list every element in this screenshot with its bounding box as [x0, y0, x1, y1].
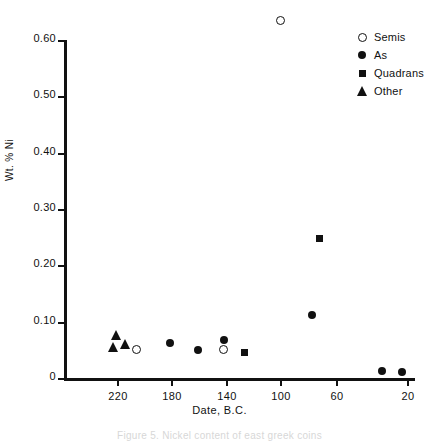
- data-point-as: [378, 367, 386, 375]
- x-tick-mark: [280, 378, 282, 386]
- legend-label: Semis: [374, 31, 406, 43]
- x-axis-title: Date, B.C.: [0, 404, 439, 416]
- x-tick-label: 100: [271, 390, 290, 402]
- y-tick-mark: [58, 378, 67, 380]
- x-tick-mark: [336, 378, 338, 386]
- triangle-filled-icon: [357, 86, 367, 96]
- x-tick-mark: [117, 378, 119, 386]
- y-tick-label: 0.60: [33, 32, 56, 44]
- x-tick-label: 60: [331, 390, 344, 402]
- chart-legend: SemisAsQuadransOther: [355, 28, 439, 100]
- y-axis-title: Wt. % Ni: [4, 139, 15, 181]
- data-point-semis: [132, 345, 141, 354]
- x-tick-mark: [407, 378, 409, 386]
- y-tick-label: 0.30: [33, 201, 56, 213]
- circle-open-icon: [358, 33, 367, 42]
- y-tick-label: 0.40: [33, 145, 56, 157]
- data-point-other: [108, 342, 118, 352]
- data-point-as: [166, 339, 174, 347]
- legend-item-semis[interactable]: Semis: [355, 28, 439, 46]
- circle-filled-icon: [358, 51, 366, 59]
- legend-item-other[interactable]: Other: [355, 82, 439, 100]
- x-tick-label: 180: [162, 390, 181, 402]
- data-point-quadrans: [241, 349, 248, 356]
- y-tick-mark: [58, 265, 67, 267]
- legend-marker-wrap: [355, 51, 369, 59]
- x-tick-mark: [226, 378, 228, 386]
- legend-label: Other: [374, 85, 403, 97]
- y-tick-mark: [58, 322, 67, 324]
- x-tick-label: 140: [217, 390, 236, 402]
- chart-figure: 0.600.500.400.300.200.100 22018014010060…: [0, 0, 439, 441]
- x-tick-mark: [171, 378, 173, 386]
- legend-marker-wrap: [355, 33, 369, 42]
- legend-marker-wrap: [355, 70, 369, 77]
- x-tick-label: 220: [108, 390, 127, 402]
- data-point-other: [120, 339, 130, 349]
- y-tick-mark: [58, 96, 67, 98]
- data-point-as: [220, 336, 228, 344]
- y-tick-label: 0.20: [33, 257, 56, 269]
- figure-caption: Figure 5. Nickel content of east greek c…: [0, 430, 439, 441]
- legend-item-quadrans[interactable]: Quadrans: [355, 64, 439, 82]
- legend-label: As: [374, 49, 387, 61]
- x-tick-label: 20: [402, 390, 415, 402]
- y-tick-label: 0.10: [33, 314, 56, 326]
- y-tick-label: 0.50: [33, 88, 56, 100]
- y-tick-mark: [58, 209, 67, 211]
- legend-marker-wrap: [355, 86, 369, 96]
- data-point-quadrans: [316, 235, 323, 242]
- legend-label: Quadrans: [374, 67, 424, 79]
- y-tick-mark: [58, 40, 67, 42]
- legend-item-as[interactable]: As: [355, 46, 439, 64]
- square-filled-icon: [359, 70, 366, 77]
- y-tick-mark: [58, 153, 67, 155]
- data-point-semis: [276, 16, 285, 25]
- data-point-as: [398, 368, 406, 376]
- data-point-semis: [219, 345, 228, 354]
- data-point-as: [308, 311, 316, 319]
- y-tick-label: 0: [50, 370, 56, 382]
- data-point-as: [194, 346, 202, 354]
